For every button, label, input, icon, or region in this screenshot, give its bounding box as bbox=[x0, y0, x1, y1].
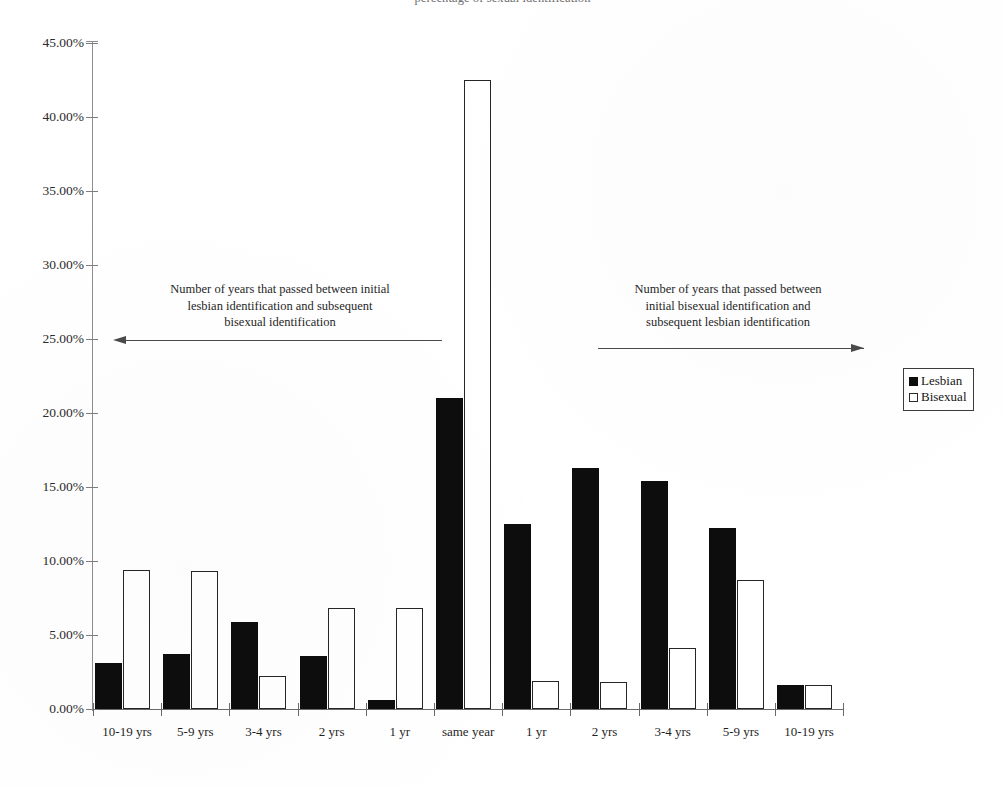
annotation-left: Number of years that passed between init… bbox=[112, 281, 448, 331]
y-axis-tick-label: 30.00% bbox=[12, 258, 84, 272]
y-axis-tick-label: 45.00% bbox=[12, 36, 84, 50]
arrow-right-head-icon bbox=[851, 344, 864, 352]
x-axis-tick bbox=[298, 703, 299, 716]
y-axis-tick bbox=[86, 709, 98, 710]
x-axis-tick bbox=[229, 703, 230, 716]
x-axis-label-7: 2 yrs bbox=[570, 724, 638, 739]
x-axis-label-3: 2 yrs bbox=[298, 724, 366, 739]
bar-bisexual-1 bbox=[191, 571, 218, 709]
x-axis-label-10: 10-19 yrs bbox=[775, 724, 843, 739]
bar-lesbian-8 bbox=[641, 481, 668, 709]
x-axis-tick bbox=[502, 703, 503, 716]
legend-item-lesbian[interactable]: Lesbian bbox=[909, 373, 967, 389]
bar-bisexual-3 bbox=[328, 608, 355, 709]
x-axis-line bbox=[92, 709, 844, 710]
y-axis-tick-label: 5.00% bbox=[12, 628, 84, 642]
chart-page: percentage of sexual identification 45.0… bbox=[0, 0, 1005, 787]
legend-item-bisexual[interactable]: Bisexual bbox=[909, 389, 967, 405]
x-axis-label-4: 1 yr bbox=[366, 724, 434, 739]
annotation-line: Number of years that passed between init… bbox=[112, 281, 448, 298]
bar-lesbian-1 bbox=[163, 654, 190, 710]
bar-bisexual-9 bbox=[737, 580, 764, 709]
bar-bisexual-6 bbox=[532, 681, 559, 709]
y-axis-tick-label: 35.00% bbox=[12, 184, 84, 198]
bar-lesbian-10 bbox=[777, 685, 804, 709]
x-axis-tick bbox=[161, 703, 162, 716]
bar-bisexual-4 bbox=[396, 608, 423, 709]
x-axis-tick bbox=[93, 703, 94, 716]
bar-lesbian-6 bbox=[504, 524, 531, 709]
x-axis-tick bbox=[366, 703, 367, 716]
annotation-right: Number of years that passed betweeniniti… bbox=[583, 281, 873, 331]
y-axis-tick-label: 40.00% bbox=[12, 110, 84, 124]
arrow-right-shaft bbox=[598, 348, 864, 349]
bar-bisexual-5 bbox=[464, 80, 491, 709]
x-axis-label-9: 5-9 yrs bbox=[707, 724, 775, 739]
bar-bisexual-2 bbox=[259, 676, 286, 709]
bar-bisexual-7 bbox=[600, 682, 627, 709]
bar-lesbian-5 bbox=[436, 398, 463, 709]
bar-plot-area bbox=[93, 43, 844, 709]
legend-label: Bisexual bbox=[921, 389, 967, 405]
y-axis-tick-label: 20.00% bbox=[12, 406, 84, 420]
bar-lesbian-4 bbox=[368, 700, 395, 709]
bar-lesbian-9 bbox=[709, 528, 736, 709]
x-axis-label-2: 3-4 yrs bbox=[229, 724, 297, 739]
x-axis-tick bbox=[707, 703, 708, 716]
x-axis-label-5: same year bbox=[434, 724, 502, 739]
annotation-line: initial bisexual identification and bbox=[583, 298, 873, 315]
y-axis-tick-label: 10.00% bbox=[12, 554, 84, 568]
x-axis-tick bbox=[570, 703, 571, 716]
annotation-line: Number of years that passed between bbox=[583, 281, 873, 298]
page-title: percentage of sexual identification bbox=[0, 0, 1005, 6]
legend-swatch-icon bbox=[909, 377, 918, 386]
x-axis-label-1: 5-9 yrs bbox=[161, 724, 229, 739]
y-axis-tick-label: 0.00% bbox=[12, 702, 84, 716]
legend-swatch-icon bbox=[909, 393, 918, 402]
x-axis-label-6: 1 yr bbox=[502, 724, 570, 739]
bar-lesbian-3 bbox=[300, 656, 327, 709]
annotation-line: subsequent lesbian identification bbox=[583, 314, 873, 331]
bar-lesbian-2 bbox=[231, 622, 258, 709]
x-axis-tick bbox=[775, 703, 776, 716]
legend-label: Lesbian bbox=[921, 373, 962, 389]
x-axis-label-0: 10-19 yrs bbox=[93, 724, 161, 739]
chart-legend: LesbianBisexual bbox=[903, 368, 974, 411]
x-axis-tick bbox=[639, 703, 640, 716]
bar-bisexual-8 bbox=[669, 648, 696, 709]
x-axis-tick bbox=[434, 703, 435, 716]
bar-bisexual-10 bbox=[805, 685, 832, 709]
bar-bisexual-0 bbox=[123, 570, 150, 709]
bar-lesbian-7 bbox=[572, 468, 599, 709]
annotation-line: lesbian identification and subsequent bbox=[112, 298, 448, 315]
y-axis-tick-label: 25.00% bbox=[12, 332, 84, 346]
bar-lesbian-0 bbox=[95, 663, 122, 709]
x-axis-tick bbox=[843, 703, 844, 716]
y-axis-tick-label: 15.00% bbox=[12, 480, 84, 494]
annotation-line: bisexual identification bbox=[112, 314, 448, 331]
y-axis-top-cap bbox=[86, 41, 98, 42]
y-axis-labels: 45.00%40.00%35.00%30.00%25.00%20.00%15.0… bbox=[8, 0, 84, 787]
arrow-left-shaft bbox=[120, 340, 442, 341]
arrow-left-head-icon bbox=[113, 336, 126, 344]
x-axis-label-8: 3-4 yrs bbox=[639, 724, 707, 739]
